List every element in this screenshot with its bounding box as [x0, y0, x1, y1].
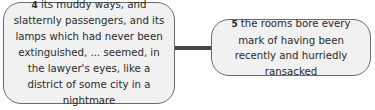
quote-node-4: 4its muddy ways, and slatternly passenge… — [3, 2, 175, 104]
node-4-text: its muddy ways, and slatternly passenger… — [14, 0, 165, 106]
quote-node-5: 5the rooms bore every mark of having bee… — [211, 19, 371, 76]
node-4-number: 4 — [32, 0, 38, 10]
node-4-content: 4its muddy ways, and slatternly passenge… — [10, 0, 168, 109]
node-5-text: the rooms bore every mark of having been… — [235, 18, 351, 77]
connector-line-4-5 — [174, 46, 212, 50]
node-5-content: 5the rooms bore every mark of having bee… — [220, 16, 362, 79]
node-5-number: 5 — [231, 19, 237, 29]
